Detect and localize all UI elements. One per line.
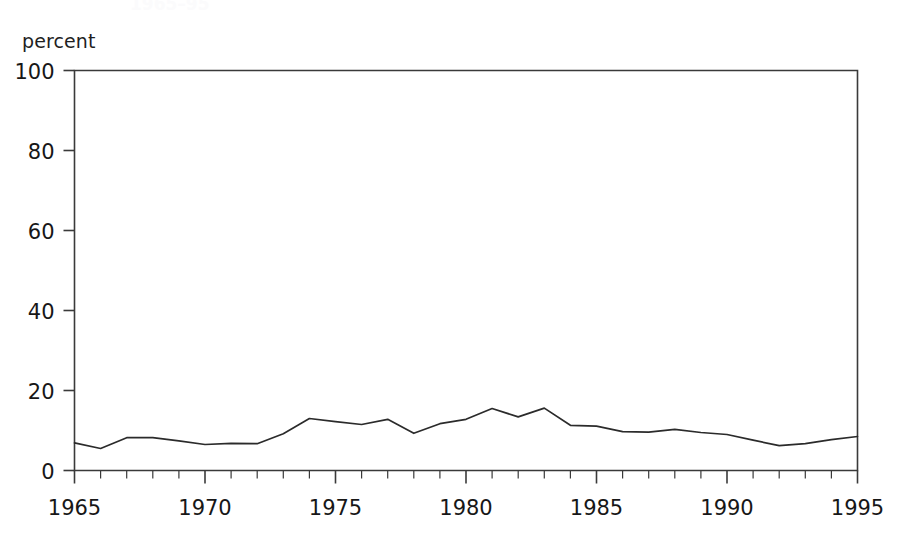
y-axis-tick-group (64, 71, 75, 471)
x-axis-tick-group (75, 471, 858, 484)
x-axis-tick-label: 1980 (439, 496, 492, 520)
chart-plot-area: 020406080100 196519701975198019851990199… (0, 0, 897, 535)
y-axis-tick-label: 80 (28, 140, 55, 164)
x-axis-tick-label: 1985 (570, 496, 623, 520)
x-axis-tick-label: 1975 (309, 496, 362, 520)
x-axis-tick-label: 1995 (831, 496, 884, 520)
x-axis-tick-label: 1990 (700, 496, 753, 520)
cropped-figure-title: 1965–95 (130, 0, 209, 14)
y-axis-tick-label: 100 (14, 60, 54, 84)
x-axis-label-group: 1965197019751980198519901995 (48, 496, 884, 520)
y-axis-tick-label: 20 (28, 380, 55, 404)
y-axis-tick-label: 60 (28, 220, 55, 244)
data-line-percent (75, 408, 858, 448)
line-chart-figure: 1965–95 percent 020406080100 19651970197… (0, 0, 897, 535)
x-axis-tick-label: 1970 (178, 496, 231, 520)
y-axis-label-group: 020406080100 (14, 60, 54, 484)
y-axis-tick-label: 40 (28, 300, 55, 324)
plot-frame-border (75, 71, 858, 471)
data-series-group (75, 408, 858, 448)
y-axis-unit-caption: percent (22, 30, 95, 52)
x-axis-tick-label: 1965 (48, 496, 101, 520)
y-axis-tick-label: 0 (41, 460, 54, 484)
plot-frame (75, 71, 858, 471)
